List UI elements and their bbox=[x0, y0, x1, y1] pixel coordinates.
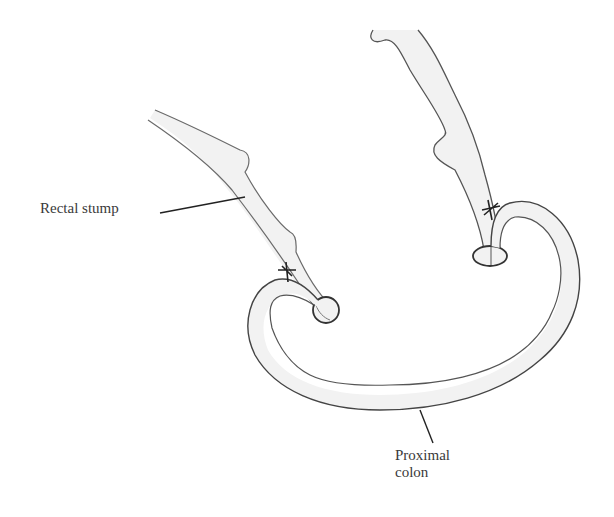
proximal-colon-leader-line bbox=[420, 410, 433, 443]
proximal-colon-label-line2: colon bbox=[395, 464, 475, 481]
colon-illustration bbox=[0, 0, 614, 517]
rectal-stump-label: Rectal stump bbox=[40, 200, 119, 217]
suture-marks bbox=[278, 200, 500, 282]
proximal-colon bbox=[248, 202, 580, 410]
diagram-canvas: Rectal stump Proximal colon bbox=[0, 0, 614, 517]
upper-bowel-segment bbox=[371, 30, 507, 266]
rectal-stump bbox=[148, 110, 339, 323]
upper-segment-stapled-end bbox=[473, 246, 507, 266]
proximal-colon-label-line1: Proximal bbox=[395, 447, 475, 464]
rectal-stump-leader-line bbox=[160, 197, 245, 213]
proximal-colon-label: Proximal colon bbox=[395, 447, 475, 481]
